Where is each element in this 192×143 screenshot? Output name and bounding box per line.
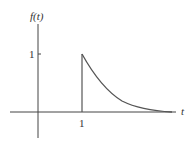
y-axis-label: f(t) (30, 10, 44, 23)
x-axis-label: t (181, 105, 185, 117)
chart-canvas: f(t) 1 1 t (0, 0, 192, 143)
y-tick-label: 1 (29, 48, 35, 60)
decay-curve (82, 54, 172, 112)
x-tick-label: 1 (79, 117, 85, 129)
